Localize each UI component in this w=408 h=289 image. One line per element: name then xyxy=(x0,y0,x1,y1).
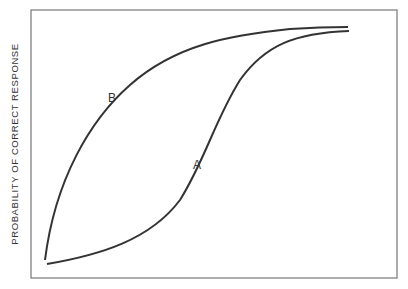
curve-a xyxy=(47,31,349,264)
y-axis-label: PROBABILITY OF CORRECT RESPONSE xyxy=(9,43,20,244)
curve-a-label: A xyxy=(193,158,201,172)
curve-b-label: B xyxy=(108,91,116,105)
chart-plot xyxy=(0,0,408,289)
plot-frame xyxy=(31,10,397,278)
curve-b xyxy=(45,27,348,260)
